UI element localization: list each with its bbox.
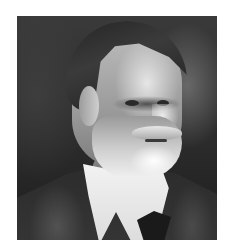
left-eye bbox=[125, 100, 139, 106]
mouth bbox=[145, 139, 167, 142]
beard bbox=[92, 116, 182, 178]
portrait-photo bbox=[17, 16, 217, 240]
moustache bbox=[132, 126, 182, 140]
ear bbox=[79, 86, 99, 126]
